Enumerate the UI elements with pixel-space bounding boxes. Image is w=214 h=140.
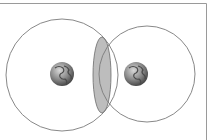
coverage-overlap-diagram [0, 0, 214, 140]
left-earth-globe-icon [50, 62, 74, 86]
diagram-canvas [0, 0, 214, 140]
overlap-region [93, 37, 111, 113]
right-earth-globe-icon [124, 62, 148, 86]
